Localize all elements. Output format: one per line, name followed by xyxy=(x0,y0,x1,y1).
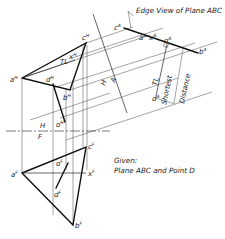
plane-abc-frontal-view xyxy=(22,147,86,225)
point-a-auxiliary: aA xyxy=(139,33,146,42)
given-heading: Given: xyxy=(114,156,137,165)
projection-lines xyxy=(22,27,217,225)
point-d-frontal: dF xyxy=(54,190,61,199)
given-text: Plane ABC and Point D xyxy=(114,166,195,175)
fold-line-h-a xyxy=(93,14,127,113)
fold-h-a-left-label: H xyxy=(99,78,108,86)
point-c-auxiliary: cA xyxy=(114,23,121,32)
distance-label: Distance xyxy=(178,73,192,105)
point-d-auxiliary: dA xyxy=(152,94,160,103)
labels: Edge View of Plane ABC aH cH bH dH oH TL… xyxy=(10,6,222,230)
point-x-auxiliary: xA xyxy=(148,33,156,42)
point-o-frontal: oF xyxy=(56,159,63,168)
tl-label-auxiliary: TL xyxy=(151,77,161,87)
point-b-frontal: bF xyxy=(75,221,82,230)
point-x-frontal: xF xyxy=(87,169,95,178)
point-c-horizontal: cH xyxy=(82,33,90,42)
fold-h-f-bottom-label: F xyxy=(38,133,43,141)
shortest-label: Shortest xyxy=(160,75,174,106)
point-a-frontal: aF xyxy=(11,170,18,179)
point-b-horizontal: bH xyxy=(63,93,71,102)
point-a-horizontal: aH xyxy=(10,75,18,84)
descriptive-geometry-diagram: Edge View of Plane ABC aH cH bH dH oH TL… xyxy=(0,0,225,239)
fold-lines xyxy=(6,14,127,131)
point-d-horizontal: dH xyxy=(46,75,54,84)
point-b-auxiliary: bA xyxy=(199,47,207,56)
point-o-horizontal: oH xyxy=(56,120,64,129)
line-d-horizontal xyxy=(53,84,65,122)
edge-view-plane-abc xyxy=(124,28,198,53)
point-c-frontal: cF xyxy=(88,142,95,151)
point-x-horizontal: xH xyxy=(68,52,77,61)
fold-h-f-top-label: H xyxy=(40,122,46,130)
edge-view-note: Edge View of Plane ABC xyxy=(136,6,222,15)
tl-label-horizontal: TL xyxy=(60,58,68,66)
